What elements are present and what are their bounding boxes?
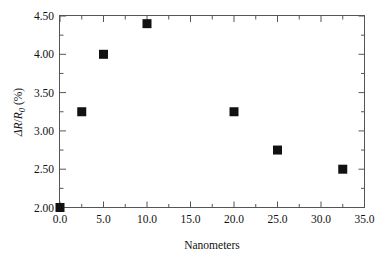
y-tick-label: 2.00 [34, 202, 54, 214]
y-axis-title-r-numerator: R [12, 122, 24, 130]
y-tick-label: 4.00 [34, 48, 54, 60]
y-axis-title-r-denominator: R [12, 112, 24, 120]
data-point-marker [143, 19, 152, 28]
y-tick-label: 4.50 [34, 10, 54, 22]
x-tick-label: 25.0 [267, 213, 287, 225]
y-tick-label: 3.00 [34, 125, 54, 137]
x-tick-label: 35.0 [354, 213, 374, 225]
x-tick-label: 20.0 [224, 213, 244, 225]
x-axis-title: Nanometers [184, 239, 240, 251]
x-tick-label: 0.0 [53, 213, 68, 225]
data-point-marker [338, 165, 347, 174]
y-tick-label: 2.50 [34, 163, 54, 175]
scatter-plot-canvas: 0.05.010.015.020.025.030.035.0 2.002.503… [0, 0, 383, 255]
y-axis-ticks [60, 16, 365, 208]
y-tick-label: 3.50 [34, 87, 54, 99]
x-axis-tick-labels: 0.05.010.015.020.025.030.035.0 [53, 213, 375, 225]
data-point-marker [273, 146, 282, 155]
y-axis-tick-labels: 2.002.503.003.504.004.50 [34, 10, 54, 214]
data-point-series [56, 19, 348, 212]
x-tick-label: 5.0 [96, 213, 111, 225]
x-tick-label: 15.0 [180, 213, 200, 225]
data-point-marker [77, 107, 86, 116]
data-point-marker [56, 203, 65, 212]
data-point-marker [99, 50, 108, 59]
data-point-marker [230, 107, 239, 116]
plot-frame [60, 16, 365, 208]
x-tick-label: 30.0 [311, 213, 331, 225]
y-axis-title: ΔR/R0 (%) [12, 88, 27, 138]
y-axis-title-units: (%) [12, 88, 25, 108]
chart-figure: 0.05.010.015.020.025.030.035.0 2.002.503… [0, 0, 383, 255]
x-axis-ticks [60, 16, 365, 208]
x-tick-label: 10.0 [137, 213, 157, 225]
svg-text:ΔR/R0 (%): ΔR/R0 (%) [12, 88, 27, 138]
